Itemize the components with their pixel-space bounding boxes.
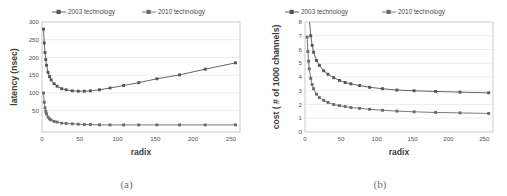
data-marker [122,123,125,126]
panel-caption-a: (a) [0,178,253,190]
y-tick-8: 8 [299,18,303,25]
data-marker [332,76,335,79]
data-marker [43,41,46,44]
data-marker [109,123,112,126]
data-marker [204,68,207,71]
data-marker [459,111,462,114]
data-marker [77,90,80,93]
y-tick-3: 3 [299,87,303,94]
data-marker [322,99,325,102]
data-marker [413,89,416,92]
latency-vs-radix-chart: 2003 technology 2010 technology [0,0,253,170]
data-marker [381,87,384,90]
x-tick-100: 100 [112,135,123,142]
data-marker [42,28,45,31]
data-marker [487,112,490,115]
data-marker [306,50,309,53]
x-tick-0: 0 [303,135,307,142]
data-marker [83,90,86,93]
data-marker [344,105,347,108]
y-tick-4: 4 [299,73,303,80]
data-marker [155,123,158,126]
y-tick-50: 50 [32,107,39,114]
data-marker [71,89,74,92]
data-marker [234,61,237,64]
data-marker [309,34,312,37]
data-marker [44,110,47,113]
data-marker [315,59,318,62]
data-marker [344,81,347,84]
data-marker [155,77,158,80]
x-tick-150: 150 [150,135,161,142]
legend-entry-2010: 2010 technology [142,8,206,16]
data-marker [65,88,68,91]
data-marker [122,84,125,87]
data-marker [381,109,384,112]
data-marker [311,83,314,86]
data-marker [338,104,341,107]
data-marker [178,73,181,76]
x-tick-0: 0 [40,135,44,142]
legend-label-2010: 2010 technology [158,8,206,16]
y-tick-1: 1 [299,114,303,121]
data-marker [307,60,310,63]
data-marker [77,123,80,126]
plot-area-a [42,22,240,132]
cost-vs-radix-chart: 2003 technology 2010 technology 01234567… [253,0,507,170]
data-marker [322,69,325,72]
data-marker [137,81,140,84]
data-marker [327,101,330,104]
data-marker [487,91,490,94]
legend-entry-2003: 2003 technology [52,8,116,16]
data-marker [53,82,56,85]
x-tick-100: 100 [372,135,383,142]
legend-label-2003: 2003 technology [301,8,349,16]
data-marker [98,123,101,126]
legend-marker-2003 [57,10,61,14]
data-marker [89,123,92,126]
data-marker [44,58,47,61]
y-axis-a: 300 250 200 150 100 50 latency (nsec) [9,18,40,114]
data-marker [332,103,335,106]
data-marker [312,87,315,90]
data-marker [349,106,352,109]
data-marker [53,120,56,123]
data-marker [44,106,47,109]
data-marker [178,123,181,126]
plot-frame-a [42,22,240,132]
data-marker [60,87,63,90]
data-marker [204,123,207,126]
data-marker [434,90,437,93]
y-tick-2: 2 [299,101,303,108]
data-marker [306,36,309,39]
legend-entry-2010: 2010 technology [382,8,446,16]
data-marker [50,78,53,81]
data-marker [459,91,462,94]
data-marker [311,44,314,47]
data-marker [65,122,68,125]
legend-marker-2003 [290,10,294,14]
y-tick-6: 6 [299,46,303,53]
x-tick-150: 150 [407,135,418,142]
y-tick-5: 5 [299,59,303,66]
data-marker [56,121,59,124]
panel-caption-b: (b) [253,178,507,190]
data-marker [98,88,101,91]
data-marker [308,67,311,70]
x-tick-50: 50 [76,135,83,142]
x-axis-b: 0 50 100 150 200 250 radix [303,135,490,157]
figure-container: 2003 technology 2010 technology [0,0,507,196]
legend-label-2010: 2010 technology [398,8,446,16]
data-marker [60,122,63,125]
data-marker [45,64,48,67]
legend-entry-2003: 2003 technology [285,8,349,16]
data-marker [368,108,371,111]
data-marker [71,122,74,125]
x-tick-250: 250 [226,135,237,142]
x-tick-250: 250 [479,135,490,142]
data-marker [234,123,237,126]
legend-b: 2003 technology 2010 technology [285,8,446,16]
chart-panel-a: 2003 technology 2010 technology [0,0,253,196]
data-marker [109,87,112,90]
data-marker [137,123,140,126]
